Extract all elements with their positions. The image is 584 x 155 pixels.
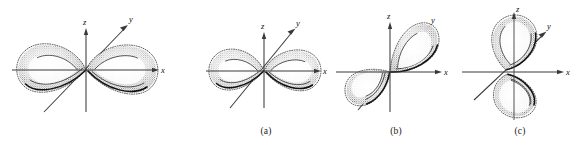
panel-caption-c: (c) (456, 126, 584, 136)
panel-caption-b: (b) (330, 126, 462, 136)
orbital-panel-0: y (0, 0, 200, 155)
axis-label-x-c: x (565, 67, 570, 77)
axis-label-y-b: y (430, 15, 435, 25)
orbital-diagram-c: y (456, 0, 584, 126)
orbital-lobe-left-0 (17, 44, 86, 92)
axis-label-y-a: y (295, 18, 300, 28)
panel-caption-a: (a) (196, 126, 336, 136)
orbital-lobe-left-a (209, 49, 264, 90)
axis-label-y-c: y (546, 21, 551, 31)
axis-label-x-0: x (160, 65, 165, 75)
orbital-diagram-a: y x (196, 0, 336, 126)
orbital-lobe-upper-b (390, 23, 439, 72)
axis-label-x-b: x (443, 67, 448, 77)
axis-label-z-c: z (515, 4, 520, 14)
axis-label-z-0: z (82, 17, 87, 27)
orbital-figure: y (0, 0, 584, 155)
axis-label-z-a: z (260, 21, 265, 31)
axis-label-y-0: y (128, 14, 133, 24)
orbital-panel-c: y (456, 0, 584, 155)
orbital-diagram-b: y (330, 0, 462, 126)
axis-x-c: x (462, 67, 570, 77)
orbital-diagram-0: y (0, 0, 200, 126)
axis-label-x-a: x (322, 66, 327, 76)
orbital-lobe-lower-c (494, 74, 537, 118)
axis-label-z-b: z (386, 11, 391, 21)
orbital-panel-a: y x (196, 0, 336, 155)
orbital-lobe-lower-b (345, 69, 390, 106)
orbital-panel-b: y (330, 0, 462, 155)
